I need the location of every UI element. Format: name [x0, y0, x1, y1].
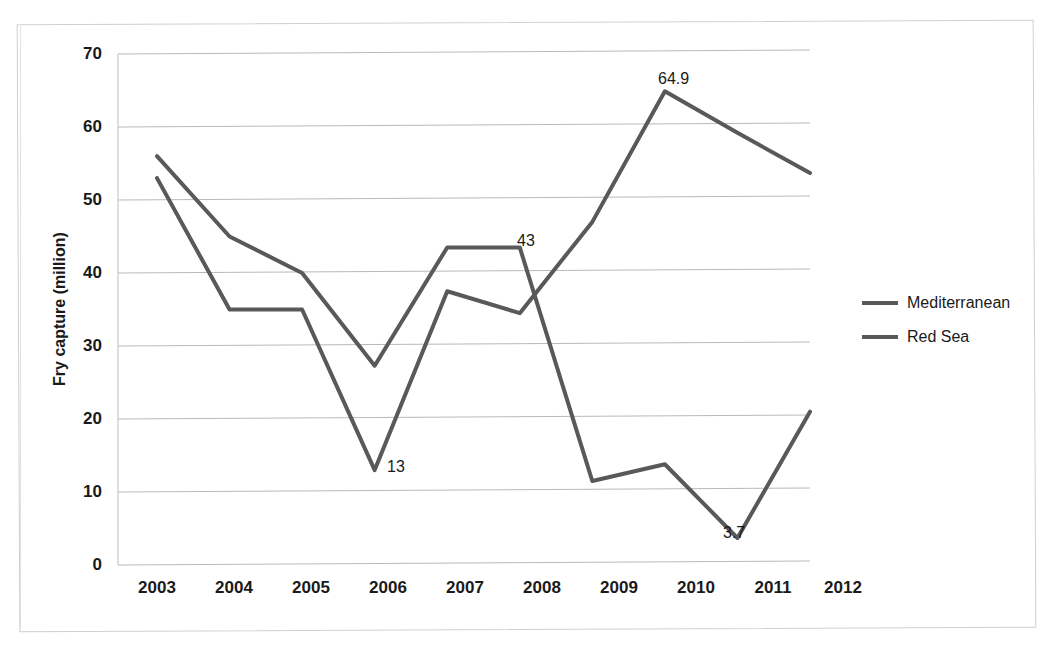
xtick-2007: 2007 [430, 578, 500, 598]
chart-legend: Mediterranean Red Sea [862, 286, 1010, 354]
xtick-2011: 2011 [738, 578, 808, 598]
xtick-2009: 2009 [584, 578, 654, 598]
data-label-dip2011: 3.7 [723, 524, 745, 542]
ytick-10: 10 [62, 482, 102, 502]
legend-swatch-mediterranean [862, 301, 898, 305]
xtick-2010: 2010 [661, 578, 731, 598]
ytick-0: 0 [62, 555, 102, 575]
y-axis-title: Fry capture (million) [51, 189, 69, 429]
data-label-dip2006: 13 [387, 458, 405, 476]
chart-page: 70 60 50 40 30 20 10 0 Fry capture (mill… [0, 0, 1049, 652]
line-chart: 70 60 50 40 30 20 10 0 Fry capture (mill… [0, 0, 1049, 652]
data-label-cross: 43 [517, 232, 535, 250]
xtick-2008: 2008 [507, 578, 577, 598]
legend-swatch-red-sea [862, 335, 898, 339]
xtick-2006: 2006 [353, 578, 423, 598]
legend-item-red-sea: Red Sea [862, 320, 1010, 354]
xtick-2004: 2004 [199, 578, 269, 598]
legend-label-red-sea: Red Sea [907, 328, 969, 346]
ytick-60: 60 [62, 117, 102, 137]
data-label-peak: 64.9 [658, 70, 689, 88]
xtick-2012: 2012 [808, 578, 878, 598]
xtick-2005: 2005 [276, 578, 346, 598]
legend-item-mediterranean: Mediterranean [862, 286, 1010, 320]
ytick-70: 70 [62, 44, 102, 64]
xtick-2003: 2003 [122, 578, 192, 598]
legend-label-mediterranean: Mediterranean [907, 294, 1010, 312]
